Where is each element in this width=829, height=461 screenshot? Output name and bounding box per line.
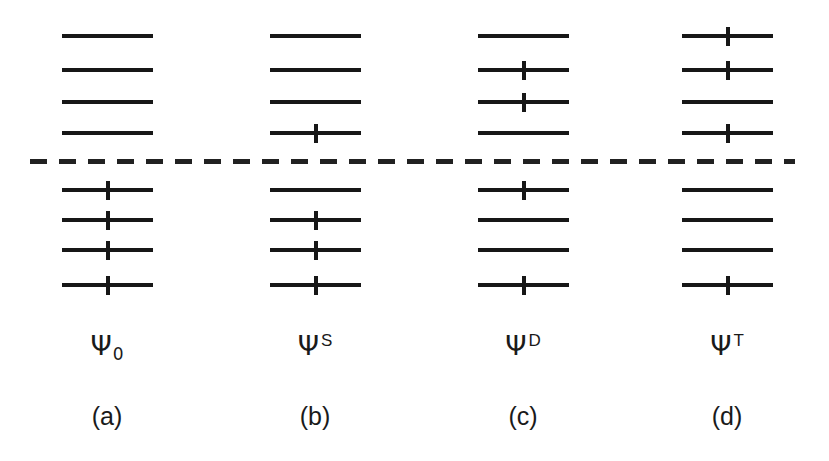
electron-occupancy-tick [726, 276, 730, 295]
orbital-level-occupied-3 [682, 248, 773, 252]
orbital-level-virtual-1 [682, 34, 773, 38]
fermi-dash-segment [639, 159, 656, 164]
fermi-dash-segment [59, 159, 76, 164]
fermi-dash-segment [349, 159, 366, 164]
fermi-dash-segment [407, 159, 424, 164]
orbital-level-virtual-3 [682, 100, 773, 104]
fermi-dash-segment [755, 159, 772, 164]
wavefunction-symbol: Ψ [710, 330, 731, 361]
fermi-dash-segment [320, 159, 337, 164]
fermi-dash-segment [146, 159, 163, 164]
orbital-level-virtual-4 [682, 131, 773, 135]
orbital-level-virtual-2 [682, 68, 773, 72]
electron-occupancy-tick [726, 61, 730, 80]
fermi-dash-segment [581, 159, 598, 164]
fermi-dash-segment [88, 159, 105, 164]
electron-occupancy-tick [726, 27, 730, 46]
fermi-dash-segment [784, 159, 795, 164]
orbital-level-occupied-1 [682, 188, 773, 192]
wavefunction-superscript: T [731, 331, 743, 350]
fermi-dash-segment [378, 159, 395, 164]
orbital-level-occupied-2 [682, 218, 773, 222]
fermi-dash-segment [117, 159, 134, 164]
orbital-level-occupied-4 [682, 283, 773, 287]
fermi-dash-segment [175, 159, 192, 164]
fermi-dash-segment [262, 159, 279, 164]
fermi-dash-segment [30, 159, 47, 164]
wavefunction-label-d: ΨT [647, 332, 807, 359]
fermi-dash-segment [697, 159, 714, 164]
fermi-dash-segment [436, 159, 453, 164]
fermi-dash-segment [233, 159, 250, 164]
electron-occupancy-tick [726, 124, 730, 143]
panel-label-d: (d) [647, 404, 807, 429]
fermi-level-dashed-line [30, 159, 795, 164]
fermi-dash-segment [465, 159, 482, 164]
fermi-dash-segment [668, 159, 685, 164]
fermi-dash-segment [494, 159, 511, 164]
fermi-dash-segment [523, 159, 540, 164]
fermi-dash-segment [726, 159, 743, 164]
orbital-excitation-diagram: Ψ0(a)ΨS(b)ΨD(c)ΨT(d) [0, 0, 829, 461]
fermi-dash-segment [204, 159, 221, 164]
fermi-dash-segment [610, 159, 627, 164]
fermi-dash-segment [552, 159, 569, 164]
column-d: ΨT(d) [0, 0, 829, 461]
fermi-dash-segment [291, 159, 308, 164]
